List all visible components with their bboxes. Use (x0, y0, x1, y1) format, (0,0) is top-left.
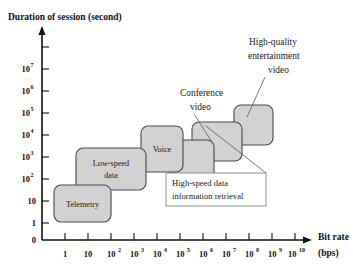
y-tick-label-1: 1 (32, 218, 36, 228)
region-label-telemetry: Telemetry (66, 200, 100, 209)
svg-text:5: 5 (31, 106, 34, 112)
callout-label-line2: information retrieval (172, 191, 244, 201)
chart-canvas: Duration of session (second) 0 1 10 10 (0, 0, 353, 275)
svg-text:10: 10 (22, 108, 31, 118)
svg-text:10: 10 (22, 152, 31, 162)
y-axis-tick-labels: 0 1 10 10 2 10 3 10 4 10 5 10 6 (22, 62, 37, 245)
x-axis-ticks (65, 233, 295, 240)
chart-container: Duration of session (second) 0 1 10 10 (0, 0, 353, 275)
region-label-low-speed-data-line1: Low-speed (93, 159, 129, 168)
svg-text:10: 10 (153, 249, 162, 259)
svg-text:10: 10 (288, 249, 297, 259)
svg-text:10: 10 (22, 64, 31, 74)
x-axis-title: Bit rate (318, 232, 349, 242)
x-axis-arrow-icon (303, 236, 312, 243)
annotation-high-quality-line2: entertainment (248, 51, 300, 61)
svg-text:10: 10 (222, 249, 231, 259)
x-tick-label-1e3: 10 3 (130, 247, 144, 259)
x-tick-label-1e7: 10 7 (222, 247, 236, 259)
x-tick-label-1e9: 10 9 (268, 247, 282, 259)
region-label-low-speed-data-line2: data (104, 171, 118, 180)
svg-text:2: 2 (118, 247, 121, 253)
x-tick-label-1e2: 10 2 (107, 247, 121, 259)
svg-text:10: 10 (22, 86, 31, 96)
y-axis-ticks (42, 47, 49, 223)
annotation-high-quality-line1: High-quality (249, 37, 297, 47)
x-tick-label-1e4: 10 4 (153, 247, 167, 259)
svg-text:10: 10 (299, 247, 305, 253)
svg-text:4: 4 (31, 128, 34, 134)
svg-text:7: 7 (31, 62, 34, 68)
svg-text:6: 6 (31, 84, 34, 90)
x-axis-unit: (bps) (318, 248, 339, 259)
x-tick-label-1e6: 10 6 (199, 247, 213, 259)
y-axis-arrow-icon (38, 26, 45, 35)
region-box-low-speed-data[interactable] (76, 148, 146, 190)
y-tick-label-1e6: 10 6 (22, 84, 34, 96)
x-tick-label-10: 10 (84, 249, 93, 259)
x-tick-label-1: 1 (63, 249, 67, 259)
x-tick-label-1e5: 10 5 (176, 247, 190, 259)
y-tick-label-0: 0 (32, 235, 36, 245)
y-axis-title: Duration of session (second) (8, 12, 122, 23)
svg-text:10: 10 (176, 249, 185, 259)
annotation-conference-video-line1: Conference (180, 88, 223, 98)
x-axis-tick-labels: 1 10 10 2 10 3 10 4 10 5 10 6 (63, 247, 305, 259)
svg-text:10: 10 (22, 174, 31, 184)
svg-text:10: 10 (245, 249, 254, 259)
svg-text:10: 10 (199, 249, 208, 259)
annotation-conference-video-line2: video (190, 102, 211, 112)
y-tick-label-1e3: 10 3 (22, 150, 34, 162)
y-tick-label-1e7: 10 7 (22, 62, 34, 74)
y-tick-label-1e2: 10 2 (22, 172, 34, 184)
svg-text:3: 3 (31, 150, 34, 156)
y-tick-label-10: 10 (28, 196, 37, 206)
svg-text:2: 2 (31, 172, 34, 178)
y-tick-label-1e4: 10 4 (22, 128, 34, 140)
svg-text:8: 8 (256, 247, 259, 253)
svg-text:4: 4 (164, 247, 167, 253)
svg-text:7: 7 (233, 247, 236, 253)
svg-text:10: 10 (107, 249, 116, 259)
x-tick-label-1e10: 10 10 (288, 247, 305, 259)
svg-text:10: 10 (22, 130, 31, 140)
svg-text:6: 6 (210, 247, 213, 253)
svg-text:3: 3 (141, 247, 144, 253)
svg-text:9: 9 (279, 247, 282, 253)
y-tick-label-1e5: 10 5 (22, 106, 34, 118)
x-tick-label-1e8: 10 8 (245, 247, 259, 259)
callout-label-line1: High-speed data (172, 178, 228, 188)
region-label-voice: Voice (153, 145, 172, 154)
svg-text:10: 10 (268, 249, 277, 259)
svg-text:5: 5 (187, 247, 190, 253)
annotation-high-quality-line3: video (268, 65, 289, 75)
svg-text:10: 10 (130, 249, 139, 259)
